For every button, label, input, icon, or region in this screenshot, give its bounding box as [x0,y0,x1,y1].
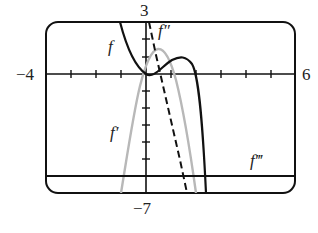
f-prime-label: f′ [110,124,118,141]
y-min-label: −7 [133,200,151,217]
x-min-label: −4 [16,66,34,83]
f-label: f [108,38,113,55]
y-max-label: 3 [140,2,149,19]
f-double-prime-label: f″ [158,22,170,39]
f-triple-prime-label: f‴ [250,152,262,169]
x-max-label: 6 [302,66,311,83]
